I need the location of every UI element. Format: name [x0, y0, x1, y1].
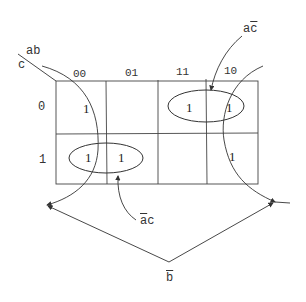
acbar-arrow [211, 36, 242, 90]
col-header-00: 00 [73, 69, 86, 80]
col-var-label: ab [26, 46, 40, 57]
abarc-arrow [118, 176, 136, 220]
cell-r1-c01: 1 [118, 151, 125, 164]
kmap-grid [56, 79, 258, 184]
col-header-10: 10 [224, 66, 237, 77]
label-a-cbar-c: c [250, 22, 257, 36]
label-abar-c: ac [140, 216, 154, 227]
cell-r0-c10: 1 [226, 101, 233, 114]
label-bbar: b [166, 273, 173, 284]
bbar-curve-right [223, 66, 275, 202]
row-header-1: 1 [39, 155, 46, 166]
cell-r0-c00: 1 [83, 102, 90, 115]
row-var-label: c [18, 60, 25, 71]
label-a-cbar: ac [243, 24, 257, 35]
cell-r1-c10: 1 [229, 150, 236, 163]
group-ellipse-abar-c [69, 143, 143, 173]
kmap-drawing [0, 0, 306, 302]
cell-r0-c11: 1 [186, 101, 193, 114]
karnaugh-map-diagram: ab c 00 01 11 10 0 1 1 1 1 1 1 1 ac ac b [0, 0, 306, 302]
label-abar-c-c: c [147, 214, 154, 228]
bbar-curve-right-tail [275, 202, 290, 203]
label-bbar-b: b [166, 271, 173, 285]
col-header-01: 01 [125, 68, 138, 79]
row-header-0: 0 [38, 102, 45, 113]
col-header-11: 11 [176, 67, 189, 78]
bbar-arrow-right [169, 203, 273, 262]
cell-r1-c00: 1 [85, 151, 92, 164]
